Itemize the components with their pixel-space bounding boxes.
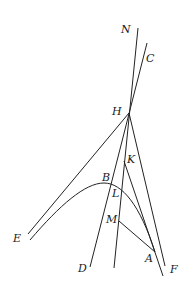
label-N: N <box>120 23 131 36</box>
label-H: H <box>111 105 122 118</box>
label-L: L <box>111 187 119 200</box>
geometry-diagram: N C H K B L M E A D F <box>0 0 189 292</box>
line-NH <box>114 28 138 268</box>
label-D: D <box>77 262 87 275</box>
label-K: K <box>126 153 136 166</box>
label-C: C <box>146 52 155 65</box>
label-E: E <box>12 232 21 245</box>
curve-EBA <box>30 183 155 252</box>
label-A: A <box>144 252 153 265</box>
label-F: F <box>169 263 178 276</box>
label-M: M <box>105 213 118 226</box>
line-KA <box>124 161 163 276</box>
label-B: B <box>101 171 110 184</box>
line-HF <box>129 113 165 266</box>
